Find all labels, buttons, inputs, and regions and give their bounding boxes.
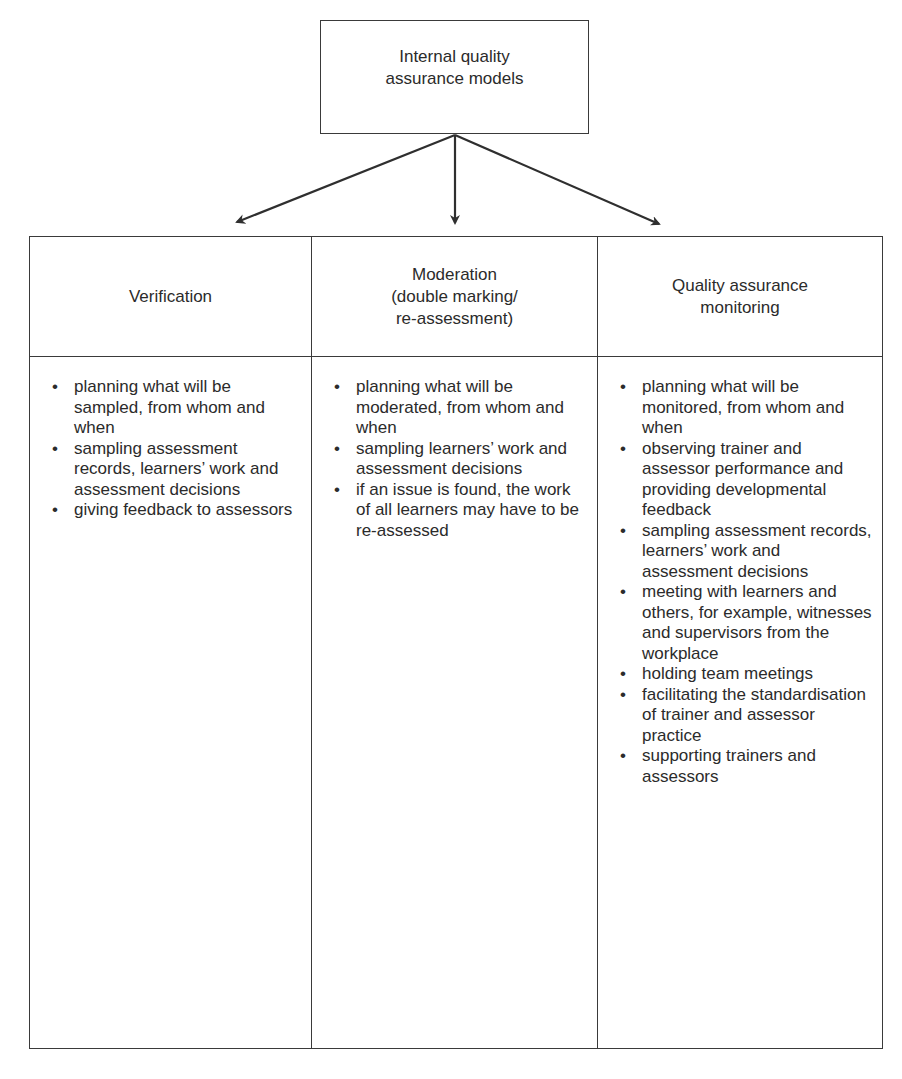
- list-item: •planning what will be moderated, from w…: [334, 377, 589, 439]
- column-header-line: re-assessment): [312, 308, 597, 330]
- list-item-text: holding team meetings: [642, 664, 813, 683]
- root-label-line-1: Internal quality: [386, 46, 524, 68]
- column-body-verification: •planning what will be sampled, from who…: [30, 357, 312, 1049]
- bullet-icon: •: [52, 377, 58, 398]
- column-body-moderation: •planning what will be moderated, from w…: [312, 357, 598, 1049]
- verification-list: •planning what will be sampled, from who…: [30, 357, 311, 521]
- list-item: •observing trainer and assessor performa…: [620, 439, 874, 521]
- root-node-internal-quality-assurance-models: Internal quality assurance models: [320, 20, 589, 134]
- column-header-quality-assurance-monitoring: Quality assurance monitoring: [598, 237, 883, 357]
- models-body-row: •planning what will be sampled, from who…: [30, 357, 883, 1049]
- root-label-line-2: assurance models: [386, 68, 524, 90]
- list-item-text: sampling assessment records, learners’ w…: [642, 521, 872, 581]
- bullet-icon: •: [52, 500, 58, 521]
- list-item-text: planning what will be sampled, from whom…: [74, 377, 265, 437]
- list-item-text: sampling learners’ work and assessment d…: [356, 439, 567, 479]
- list-item-text: sampling assessment records, learners’ w…: [74, 439, 278, 499]
- list-item-text: planning what will be monitored, from wh…: [642, 377, 844, 437]
- moderation-list: •planning what will be moderated, from w…: [312, 357, 597, 541]
- column-header-line: monitoring: [598, 297, 882, 319]
- list-item: •planning what will be sampled, from who…: [52, 377, 303, 439]
- list-item-text: supporting trainers and assessors: [642, 746, 816, 786]
- models-table: Verification Moderation (double marking/…: [29, 236, 883, 1049]
- list-item-text: planning what will be moderated, from wh…: [356, 377, 564, 437]
- column-header-verification: Verification: [30, 237, 312, 357]
- list-item: •sampling assessment records, learners’ …: [620, 521, 874, 583]
- bullet-icon: •: [52, 439, 58, 460]
- bullet-icon: •: [334, 377, 340, 398]
- list-item: •giving feedback to assessors: [52, 500, 303, 521]
- column-header-line: Moderation: [312, 264, 597, 286]
- arrow-to-verification: [237, 135, 455, 222]
- list-item-text: meeting with learners and others, for ex…: [642, 582, 872, 663]
- bullet-icon: •: [620, 521, 626, 542]
- list-item: •sampling learners’ work and assessment …: [334, 439, 589, 480]
- quality-assurance-monitoring-list: •planning what will be monitored, from w…: [598, 357, 882, 787]
- list-item: •planning what will be monitored, from w…: [620, 377, 874, 439]
- bullet-icon: •: [620, 582, 626, 603]
- list-item-text: facilitating the standardisation of trai…: [642, 685, 866, 745]
- list-item: •holding team meetings: [620, 664, 874, 685]
- bullet-icon: •: [620, 664, 626, 685]
- list-item: •facilitating the standardisation of tra…: [620, 685, 874, 747]
- models-header-row: Verification Moderation (double marking/…: [30, 237, 883, 357]
- column-header-line: Verification: [30, 286, 311, 308]
- list-item: •if an issue is found, the work of all l…: [334, 480, 589, 542]
- root-node-label: Internal quality assurance models: [386, 46, 524, 90]
- bullet-icon: •: [620, 439, 626, 460]
- list-item-text: giving feedback to assessors: [74, 500, 292, 519]
- arrow-to-quality-assurance-monitoring: [455, 135, 659, 224]
- bullet-icon: •: [334, 439, 340, 460]
- column-header-line: Quality assurance: [598, 275, 882, 297]
- list-item: •meeting with learners and others, for e…: [620, 582, 874, 664]
- list-item: •sampling assessment records, learners’ …: [52, 439, 303, 501]
- list-item-text: observing trainer and assessor performan…: [642, 439, 843, 520]
- column-header-moderation: Moderation (double marking/ re-assessmen…: [312, 237, 598, 357]
- bullet-icon: •: [620, 685, 626, 706]
- bullet-icon: •: [334, 480, 340, 501]
- column-body-quality-assurance-monitoring: •planning what will be monitored, from w…: [598, 357, 883, 1049]
- list-item-text: if an issue is found, the work of all le…: [356, 480, 579, 540]
- list-item: •supporting trainers and assessors: [620, 746, 874, 787]
- bullet-icon: •: [620, 377, 626, 398]
- column-header-line: (double marking/: [312, 286, 597, 308]
- bullet-icon: •: [620, 746, 626, 767]
